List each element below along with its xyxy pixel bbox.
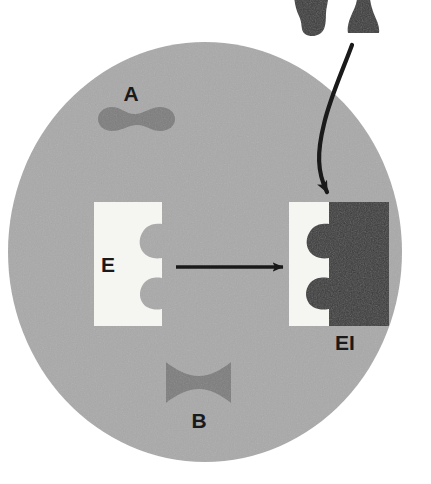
- label-e: E: [101, 253, 115, 276]
- label-b: B: [191, 409, 206, 432]
- enzyme-inhibitor-complex: [289, 202, 389, 326]
- diagram-canvas: A B E EI: [0, 0, 431, 484]
- enzyme-inhibition-figure: A B E EI: [0, 0, 431, 484]
- label-ei: EI: [335, 331, 355, 354]
- label-a: A: [123, 82, 138, 105]
